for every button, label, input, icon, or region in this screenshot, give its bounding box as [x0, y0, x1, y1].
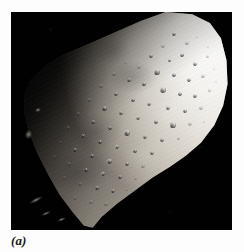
shadow-glint: [29, 195, 43, 205]
asteroid-body: [11, 12, 232, 230]
shadow-glint: [41, 210, 51, 217]
shadow-glint: [57, 217, 66, 223]
figure-plate: (a): [0, 0, 244, 252]
asteroid-photograph: [11, 12, 232, 230]
figure-caption-label: (a): [11, 233, 26, 249]
film-grain: [11, 12, 232, 230]
